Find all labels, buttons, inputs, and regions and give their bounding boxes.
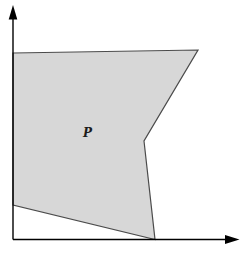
polygon-label: P [82,126,93,140]
y-axis-arrow-icon [9,5,18,20]
polygon-P [13,50,198,240]
x-axis-arrow-icon [225,235,240,244]
polygon-figure: P [0,0,244,256]
figure-svg: P [0,0,244,256]
